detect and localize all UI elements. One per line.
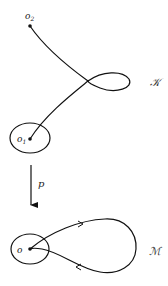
loop-curve <box>30 219 136 273</box>
space-k-label: 𝒦 <box>150 76 164 89</box>
point-o2-dot <box>28 24 32 28</box>
top-space: o2 o1 𝒦 <box>10 11 164 153</box>
bottom-space: o ℳ <box>11 219 163 273</box>
projection-map: p <box>31 165 45 205</box>
map-p-label: p <box>38 178 45 189</box>
point-o-dot <box>28 247 32 251</box>
lifted-path-curve <box>30 26 130 139</box>
covering-space-diagram: o2 o1 𝒦 p o ℳ <box>0 0 168 286</box>
point-o-label: o <box>17 245 23 255</box>
point-o2-label: o2 <box>25 11 34 22</box>
point-o1-label: o1 <box>17 134 26 145</box>
point-o1-dot <box>28 137 32 141</box>
space-m-label: ℳ <box>149 245 163 258</box>
